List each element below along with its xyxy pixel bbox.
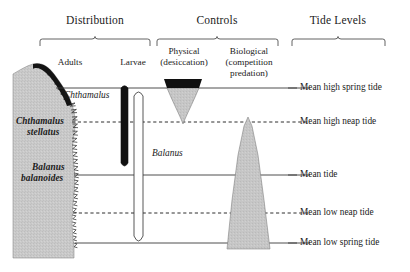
header-controls: Controls — [196, 14, 237, 26]
brace-distribution — [40, 37, 150, 47]
subheader-biological: Biological — [230, 47, 268, 57]
biological-control-wedge — [227, 117, 270, 249]
figure-canvas: Distribution Controls Tide Levels Adults… — [0, 0, 410, 272]
subheader-physical-detail: (desiccation) — [160, 58, 207, 68]
tide-label-mean-high-spring-tide: Mean high spring tide — [300, 82, 382, 92]
tide-label-leaders — [288, 88, 297, 243]
physical-control-cap — [164, 79, 202, 88]
chthamalus-larvae-bar — [121, 86, 128, 166]
label-chthamalus-stellatus-species: stellatus — [27, 127, 59, 137]
label-chthamalus-stellatus-genus: Chthamalus — [16, 116, 64, 126]
diagram-svg — [0, 0, 410, 272]
brace-controls — [157, 37, 278, 47]
tide-label-mean-high-neap-tide: Mean high neap tide — [300, 116, 376, 126]
tide-label-mean-tide: Mean tide — [300, 169, 337, 179]
subheader-physical: Physical — [168, 47, 199, 57]
subheader-biological-detail-2: predation) — [230, 69, 268, 79]
tide-label-mean-low-spring-tide: Mean low spring tide — [300, 237, 379, 247]
subheader-biological-detail-1: (competition — [226, 58, 273, 68]
subheader-larvae: Larvae — [120, 58, 146, 68]
balanus-larvae-bar — [134, 92, 143, 241]
label-balanus-larvae: Balanus — [152, 148, 183, 158]
header-distribution: Distribution — [66, 14, 124, 26]
physical-control-wedge — [167, 88, 199, 124]
label-chthamalus: Chthamalus — [64, 90, 109, 100]
label-balanus-balanoides-genus: Balanus — [32, 162, 65, 172]
header-tide-levels: Tide Levels — [310, 14, 366, 26]
label-balanus-balanoides-species: balanoides — [21, 173, 63, 183]
brace-tide-levels — [292, 37, 385, 47]
subheader-adults: Adults — [58, 58, 83, 68]
tide-label-mean-low-neap-tide: Mean low neap tide — [300, 207, 374, 217]
